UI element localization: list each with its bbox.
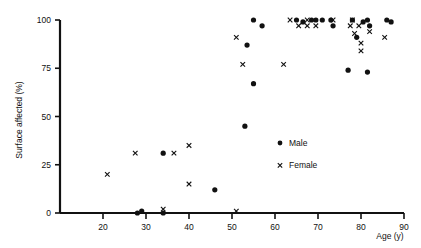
data-point-female <box>314 23 319 28</box>
data-point-male <box>242 124 247 129</box>
x-axis-group: 2030405060708090 <box>60 213 409 232</box>
data-point-female <box>234 35 239 40</box>
data-point-female <box>348 23 353 28</box>
data-point-female <box>352 31 357 36</box>
data-point-male <box>212 187 217 192</box>
data-point-male <box>346 68 351 73</box>
x-tick-label-80: 80 <box>356 222 366 232</box>
y-axis-title: Surface affected (%) <box>14 81 24 158</box>
data-point-male <box>389 19 394 24</box>
data-point-male <box>365 17 370 22</box>
data-point-female <box>133 151 138 156</box>
data-point-male <box>251 81 256 86</box>
y-axis-group: 0255075100 <box>37 15 60 218</box>
legend-female-marker-icon <box>278 163 282 167</box>
data-point-female <box>359 49 364 54</box>
data-point-female <box>172 151 177 156</box>
x-tick-label-60: 60 <box>270 222 280 232</box>
scatter-plot-figure: 0255075100 2030405060708090 Surface affe… <box>0 0 421 248</box>
data-point-female <box>187 182 192 187</box>
data-point-female <box>359 41 364 46</box>
data-point-female <box>305 23 310 28</box>
data-point-male <box>294 17 299 22</box>
data-point-female <box>240 62 245 67</box>
y-tick-label-50: 50 <box>42 112 52 122</box>
data-point-male <box>365 70 370 75</box>
x-tick-label-50: 50 <box>227 222 237 232</box>
x-axis-title: Age (y) <box>376 231 404 241</box>
data-point-male <box>244 42 249 47</box>
legend: Male Female <box>278 138 318 170</box>
data-point-female <box>105 172 110 177</box>
data-point-male <box>367 23 372 28</box>
x-tick-label-70: 70 <box>313 222 323 232</box>
data-series-male <box>135 17 394 215</box>
y-axis-tick-labels: 0255075100 <box>37 15 51 218</box>
data-point-male <box>251 17 256 22</box>
data-point-female <box>187 143 192 148</box>
chart-canvas: 0255075100 2030405060708090 Surface affe… <box>0 0 421 248</box>
data-point-male <box>330 23 335 28</box>
x-tick-label-20: 20 <box>98 222 108 232</box>
data-point-female <box>305 18 310 23</box>
data-point-male <box>139 208 144 213</box>
data-point-male <box>161 151 166 156</box>
y-tick-label-100: 100 <box>37 15 51 25</box>
data-point-female <box>281 62 286 67</box>
data-point-male <box>320 17 325 22</box>
x-tick-label-30: 30 <box>141 222 151 232</box>
x-tick-label-40: 40 <box>184 222 194 232</box>
y-tick-label-0: 0 <box>46 208 51 218</box>
data-point-female <box>357 23 362 28</box>
data-point-male <box>260 23 265 28</box>
data-point-female <box>382 35 387 40</box>
legend-male-marker-icon <box>278 141 283 146</box>
x-axis-tick-labels: 2030405060708090 <box>98 222 409 232</box>
data-point-female <box>288 18 293 23</box>
legend-male-label: Male <box>289 138 308 148</box>
data-point-female <box>296 23 301 28</box>
data-point-female <box>367 29 372 34</box>
y-tick-label-25: 25 <box>42 160 52 170</box>
legend-female-label: Female <box>289 160 318 170</box>
y-tick-label-75: 75 <box>42 63 52 73</box>
data-point-male <box>313 17 318 22</box>
